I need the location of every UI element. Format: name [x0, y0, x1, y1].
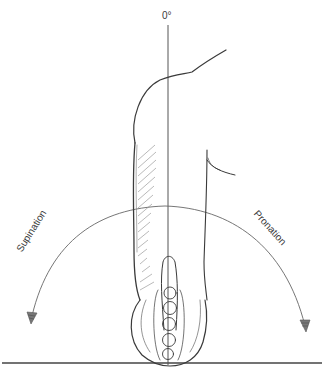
zero-degree-label: 0° — [162, 10, 172, 21]
diagram-canvas — [0, 0, 327, 371]
pronation-arrowhead — [300, 320, 310, 332]
supination-arrowhead — [27, 312, 37, 324]
rotation-diagram: 0° Supination Pronation — [0, 0, 327, 371]
shading-hatch — [138, 145, 156, 290]
forearm-sketch — [131, 50, 235, 366]
